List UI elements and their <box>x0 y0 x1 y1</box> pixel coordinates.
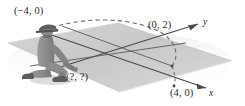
label-axis-y: y <box>203 18 207 28</box>
label-point-4-0: (4, 0) <box>170 88 193 99</box>
coordinate-plane-figure: (−4, 0) (0, 2) (?, ?) (4, 0) y x <box>0 0 245 106</box>
label-point-unknown: (?, ?) <box>66 72 88 83</box>
label-axis-x: x <box>209 89 213 99</box>
label-point-neg4-0: (−4, 0) <box>14 6 43 17</box>
label-point-0-2: (0, 2) <box>148 20 171 31</box>
